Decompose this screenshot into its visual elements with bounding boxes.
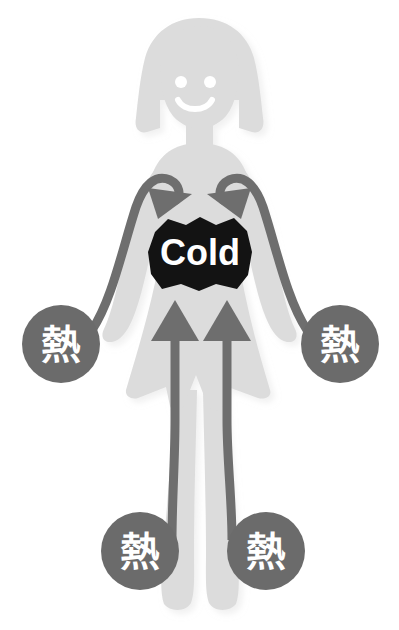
heat-kanji-label: 熱	[246, 529, 286, 575]
cold-core-label: Cold	[160, 232, 240, 273]
heat-badge-left-foot[interactable]: 熱	[101, 512, 179, 590]
heat-badge-left-hand[interactable]: 熱	[22, 305, 100, 383]
diagram-canvas: Cold 熱 熱 熱 熱	[0, 0, 399, 630]
heat-kanji-label: 熱	[120, 529, 160, 575]
head	[161, 26, 239, 129]
heat-kanji-label: 熱	[320, 322, 360, 368]
heat-flow-diagram: Cold 熱 熱 熱 熱	[0, 0, 399, 630]
cold-core-patch: Cold	[148, 217, 252, 291]
right-eye-icon	[204, 76, 216, 88]
heat-badge-right-hand[interactable]: 熱	[301, 305, 379, 383]
left-eye-icon	[175, 76, 187, 88]
heat-badge-right-foot[interactable]: 熱	[227, 512, 305, 590]
heat-kanji-label: 熱	[41, 322, 81, 368]
